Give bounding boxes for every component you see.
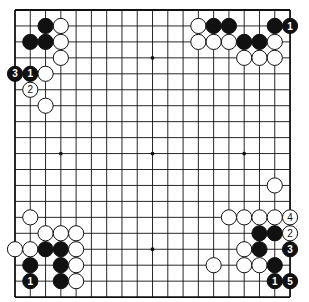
black-stone: 1 [282, 18, 297, 33]
move-number-label: 4 [287, 212, 293, 223]
white-stone [69, 242, 84, 257]
white-stone [23, 242, 38, 257]
white-stone [267, 50, 282, 65]
black-stone [267, 258, 282, 273]
go-board: 3121423151 [0, 0, 309, 302]
move-number-label: 1 [272, 276, 278, 287]
black-stone [252, 226, 267, 241]
white-stone: 4 [282, 210, 297, 225]
white-stone [53, 50, 68, 65]
white-stone [191, 18, 206, 33]
black-stone [23, 34, 38, 49]
white-stone [69, 226, 84, 241]
move-number-label: 2 [27, 84, 33, 95]
star-point [242, 152, 246, 156]
white-stone [267, 178, 282, 193]
white-stone [252, 50, 267, 65]
star-point [59, 152, 63, 156]
black-stone [53, 258, 68, 273]
white-stone: 2 [23, 82, 38, 97]
black-stone: 1 [23, 274, 38, 289]
star-point [151, 247, 155, 251]
white-stone [267, 34, 282, 49]
white-stone [38, 226, 53, 241]
white-stone [38, 66, 53, 81]
white-stone [221, 210, 236, 225]
black-stone: 1 [267, 274, 282, 289]
white-stone [38, 98, 53, 113]
black-stone: 3 [7, 66, 22, 81]
white-stone [237, 210, 252, 225]
white-stone [191, 34, 206, 49]
black-stone [252, 242, 267, 257]
white-stone [206, 258, 221, 273]
white-stone [23, 210, 38, 225]
move-number-label: 1 [27, 68, 33, 79]
black-stone [206, 18, 221, 33]
white-stone [69, 258, 84, 273]
star-point [151, 152, 155, 156]
white-stone [221, 34, 236, 49]
white-stone [7, 242, 22, 257]
move-number-label: 1 [287, 21, 293, 32]
black-stone [38, 18, 53, 33]
black-stone [267, 226, 282, 241]
white-stone [53, 34, 68, 49]
move-number-label: 3 [287, 244, 293, 255]
white-stone: 2 [282, 226, 297, 241]
black-stone [53, 242, 68, 257]
black-stone [38, 242, 53, 257]
black-stone [53, 274, 68, 289]
white-stone [252, 258, 267, 273]
move-number-label: 5 [287, 276, 293, 287]
black-stone [23, 258, 38, 273]
white-stone [252, 210, 267, 225]
black-stone [267, 18, 282, 33]
white-stone [53, 18, 68, 33]
white-stone [69, 274, 84, 289]
white-stone [267, 210, 282, 225]
black-stone [252, 34, 267, 49]
white-stone [237, 258, 252, 273]
move-number-label: 2 [287, 228, 293, 239]
black-stone: 1 [23, 66, 38, 81]
black-stone [237, 34, 252, 49]
white-stone [237, 50, 252, 65]
white-stone [53, 226, 68, 241]
star-point [151, 56, 155, 60]
white-stone [206, 34, 221, 49]
black-stone: 5 [282, 274, 297, 289]
black-stone [221, 18, 236, 33]
move-number-label: 3 [12, 68, 18, 79]
black-stone: 3 [282, 242, 297, 257]
white-stone [237, 242, 252, 257]
black-stone [38, 34, 53, 49]
move-number-label: 1 [27, 276, 33, 287]
